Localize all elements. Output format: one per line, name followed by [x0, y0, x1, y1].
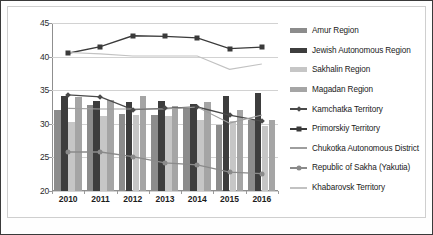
y-axis-tick-label: 40 — [40, 52, 49, 62]
legend-swatch-icon — [290, 26, 307, 36]
legend-swatch-icon — [290, 45, 307, 55]
legend-item[interactable]: Kamchatka Territory — [290, 99, 433, 119]
legend-item-label: Magadan Region — [312, 85, 373, 94]
image-frame: 202530354045 201020112012201320142015201… — [0, 0, 433, 235]
data-point-marker — [195, 35, 200, 40]
legend-swatch-icon — [290, 104, 307, 114]
data-point-marker — [227, 170, 232, 175]
legend-item[interactable]: Khabarovsk Territory — [290, 178, 433, 198]
legend-item-label: Sakhalin Region — [312, 65, 370, 74]
data-point-marker — [163, 160, 168, 165]
data-point-marker — [98, 44, 103, 49]
legend-item-label: Jewish Autonomous Region — [312, 46, 411, 55]
y-axis-tick-label: 45 — [40, 18, 49, 28]
x-tick — [181, 191, 182, 194]
legend-item[interactable]: Chukotka Autonomous District — [290, 139, 433, 159]
data-point-marker — [66, 51, 71, 56]
data-point-marker — [227, 46, 232, 51]
x-tick — [117, 191, 118, 194]
data-point-marker — [130, 33, 135, 38]
y-axis-tick-label: 25 — [40, 152, 49, 162]
data-point-marker — [259, 45, 264, 50]
x-axis-tick-label: 2016 — [252, 194, 271, 204]
legend-item[interactable]: Sakhalin Region — [290, 60, 433, 80]
x-axis-tick-label: 2012 — [123, 194, 142, 204]
data-point-marker — [195, 162, 200, 167]
gridline — [52, 191, 278, 192]
line-series — [68, 53, 262, 70]
legend-swatch-icon — [290, 163, 307, 173]
y-axis-tick-label: 30 — [40, 119, 49, 129]
x-axis-tick-label: 2010 — [59, 194, 78, 204]
x-tick — [149, 191, 150, 194]
x-tick — [246, 191, 247, 194]
legend-item-label: Republic of Sakha (Yakutia) — [312, 163, 410, 172]
x-tick — [84, 191, 85, 194]
data-point-marker — [98, 150, 103, 155]
x-axis-tick-label: 2011 — [91, 194, 109, 204]
legend-item-label: Primorskiy Territory — [312, 124, 380, 133]
x-axis-tick-label: 2014 — [188, 194, 207, 204]
plot-region: 202530354045 201020112012201320142015201… — [30, 19, 278, 209]
legend-swatch-icon — [290, 143, 307, 153]
page-artifact-text — [9, 225, 424, 232]
legend-item-label: Khabarovsk Territory — [312, 183, 385, 192]
legend-item[interactable]: Amur Region — [290, 21, 433, 41]
data-point-marker — [66, 150, 71, 155]
x-axis-tick-label: 2015 — [220, 194, 239, 204]
legend-item[interactable]: Primorskiy Territory — [290, 119, 433, 139]
x-axis-tick-label: 2013 — [156, 194, 175, 204]
legend-item[interactable]: Magadan Region — [290, 80, 433, 100]
data-point-marker — [163, 34, 168, 39]
legend-item-label: Chukotka Autonomous District — [312, 144, 419, 153]
x-tick — [278, 191, 279, 194]
legend-item-label: Kamchatka Territory — [312, 105, 383, 114]
chart-legend: Amur RegionJewish Autonomous RegionSakha… — [290, 21, 433, 197]
data-point-marker — [130, 154, 135, 159]
x-tick — [213, 191, 214, 194]
x-tick — [52, 191, 53, 194]
legend-swatch-icon — [290, 124, 307, 134]
plot-area: 202530354045 201020112012201320142015201… — [52, 23, 278, 191]
y-axis-tick-label: 35 — [40, 85, 49, 95]
legend-swatch-icon — [290, 85, 307, 95]
legend-item[interactable]: Republic of Sakha (Yakutia) — [290, 158, 433, 178]
legend-swatch-icon — [290, 65, 307, 75]
y-axis-tick-label: 20 — [40, 186, 49, 196]
legend-item-label: Amur Region — [312, 26, 359, 35]
chart-container: 202530354045 201020112012201320142015201… — [7, 6, 426, 218]
data-point-marker — [259, 171, 264, 176]
legend-item[interactable]: Jewish Autonomous Region — [290, 41, 433, 61]
legend-swatch-icon — [290, 183, 307, 193]
